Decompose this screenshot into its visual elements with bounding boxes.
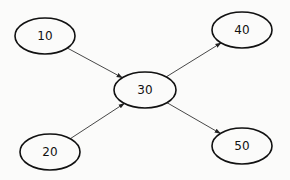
node-40-label: 40 xyxy=(234,23,249,37)
node-20: 20 xyxy=(20,134,80,170)
node-20-label: 20 xyxy=(42,145,57,159)
node-30: 30 xyxy=(114,72,176,108)
node-10-label: 10 xyxy=(37,29,52,43)
edge-10-to-30 xyxy=(67,48,122,78)
node-30-label: 30 xyxy=(137,83,152,97)
node-40: 40 xyxy=(212,12,272,48)
graph-canvas: 10 30 40 20 50 xyxy=(0,0,290,180)
node-10: 10 xyxy=(15,18,75,54)
node-50-label: 50 xyxy=(234,139,249,153)
node-50: 50 xyxy=(212,128,272,164)
nodes-layer: 10 30 40 20 50 xyxy=(15,12,272,170)
edge-20-to-30 xyxy=(70,103,124,138)
edge-30-to-50 xyxy=(167,103,220,134)
edge-30-to-40 xyxy=(166,43,221,77)
